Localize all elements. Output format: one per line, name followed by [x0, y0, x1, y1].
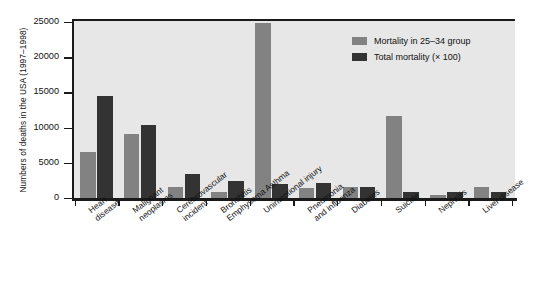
- y-tick-mark: [64, 57, 72, 58]
- legend-swatch-gray: [352, 37, 367, 45]
- y-tick-mark: [64, 163, 72, 164]
- bar-gray-5: [299, 188, 315, 198]
- y-tick-label: 0: [0, 192, 59, 202]
- bar-dark-0: [97, 96, 113, 198]
- y-tick-mark: [64, 128, 72, 129]
- bar-chart: Numbers of deaths in the USA (1997–1998)…: [0, 0, 535, 289]
- legend-item-0: Mortality in 25–34 group: [352, 36, 471, 46]
- legend: Mortality in 25–34 group Total mortality…: [352, 36, 471, 68]
- x-tick-10: [512, 200, 513, 206]
- y-tick-mark: [64, 198, 72, 199]
- y-axis-title: Numbers of deaths in the USA (1997–1998): [18, 10, 28, 210]
- bar-gray-9: [474, 187, 490, 198]
- y-tick-label: 5000: [0, 157, 59, 167]
- x-tick-9: [468, 200, 469, 206]
- y-tick-mark: [64, 22, 72, 23]
- bar-gray-7: [386, 116, 402, 198]
- legend-label-0: Mortality in 25–34 group: [374, 36, 471, 46]
- x-tick-5: [293, 200, 294, 206]
- bar-gray-8: [430, 195, 446, 198]
- bar-gray-1: [124, 134, 140, 198]
- legend-item-1: Total mortality (× 100): [352, 52, 471, 62]
- y-tick-label: 25000: [0, 16, 59, 26]
- y-tick-label: 10000: [0, 122, 59, 132]
- legend-label-1: Total mortality (× 100): [374, 52, 461, 62]
- y-tick-label: 15000: [0, 86, 59, 96]
- bar-gray-0: [80, 152, 96, 198]
- y-tick-label: 20000: [0, 51, 59, 61]
- x-tick-7: [381, 200, 382, 206]
- x-tick-8: [425, 200, 426, 206]
- legend-swatch-dark: [352, 53, 367, 61]
- y-tick-mark: [64, 92, 72, 93]
- x-tick-0: [75, 200, 76, 206]
